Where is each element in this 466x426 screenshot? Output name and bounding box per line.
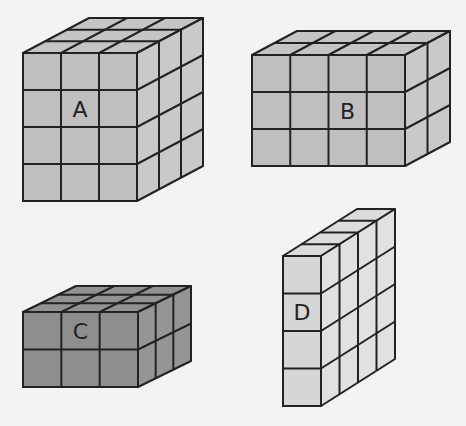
cuboid-label: C [73,319,88,344]
cuboid-d: D [283,209,395,406]
cuboid-label: D [294,300,311,325]
cuboid-label: B [340,99,355,124]
cuboid-a: A [23,18,203,201]
cuboid-c: C [23,286,191,387]
cuboids-diagram: ABCD [0,0,466,426]
cuboid-label: A [72,97,87,122]
cuboid-b: B [252,31,450,166]
